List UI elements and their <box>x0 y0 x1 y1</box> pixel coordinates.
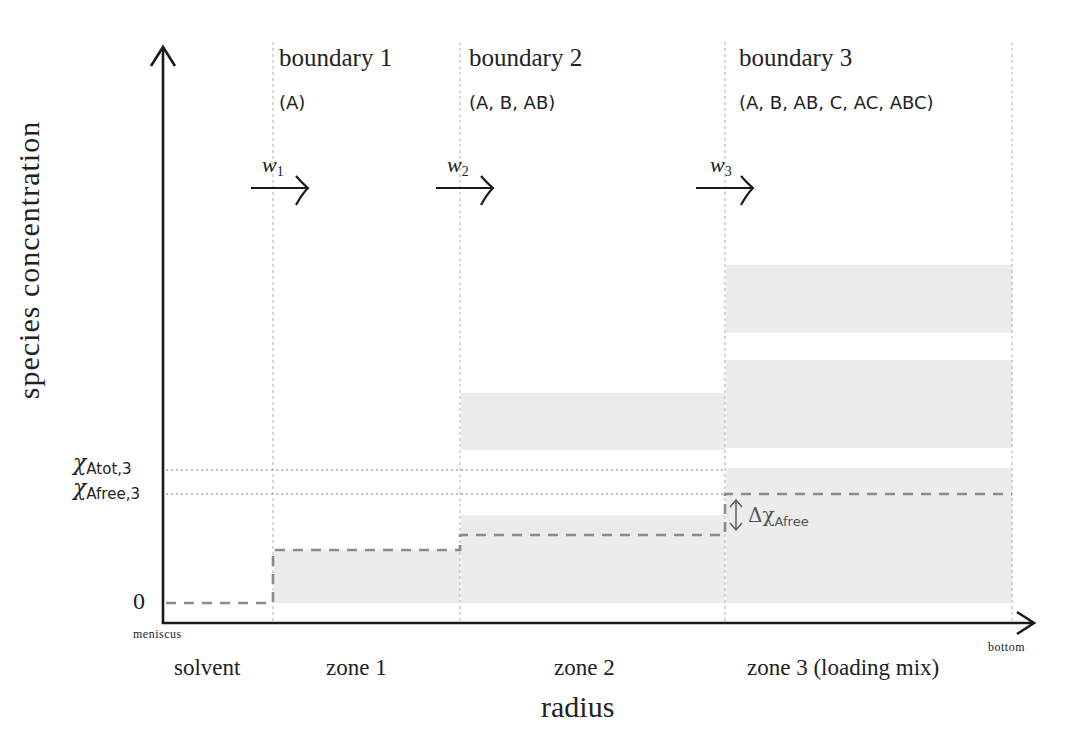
boundary-1-title: boundary 1 <box>279 44 392 72</box>
boundary-1-species: (A) <box>279 92 305 113</box>
y-tick-chi-atot-3: χAtot,3 <box>73 450 132 478</box>
y-tick-zero-text: 0 <box>133 588 145 614</box>
boundary-3-species: (A, B, AB, C, AC, ABC) <box>739 92 934 113</box>
zone3-band-middle <box>726 360 1012 448</box>
delta-main: Δχ <box>748 503 775 527</box>
w2-arrow-icon <box>436 176 493 205</box>
w3-main: w <box>710 152 725 177</box>
w2-sub: 2 <box>462 164 469 179</box>
w1-main: w <box>262 152 277 177</box>
zone-label-zone-3: zone 3 (loading mix) <box>747 655 939 681</box>
zone3-band-top <box>726 265 1012 333</box>
zone1-band <box>274 550 460 603</box>
zone2-band-lower <box>461 515 725 603</box>
w3-sub: 3 <box>725 164 732 179</box>
w1-sub: 1 <box>277 164 284 179</box>
shaded-bands <box>274 265 1012 603</box>
zone3-band-bottom <box>726 468 1012 603</box>
y-tick-zero: 0 <box>133 588 145 615</box>
figure: species concentration χAtot,3 χAfree,3 0… <box>0 0 1067 755</box>
y-tick-chi-afree-sub: Afree,3 <box>86 485 140 503</box>
boundary-2-title: boundary 2 <box>469 44 582 72</box>
bottom-label: bottom <box>988 640 1025 655</box>
y-tick-chi-afree-3: χAfree,3 <box>73 475 140 503</box>
w2-label: w2 <box>447 152 469 180</box>
w3-label: w3 <box>710 152 732 180</box>
w1-label: w1 <box>262 152 284 180</box>
reference-lines <box>166 470 725 494</box>
boundary-3-title: boundary 3 <box>739 44 852 72</box>
zone2-band-upper <box>461 393 725 450</box>
meniscus-label: meniscus <box>133 627 182 642</box>
x-axis-title: radius <box>541 690 614 724</box>
delta-sub: Afree <box>775 514 809 529</box>
y-tick-chi-atot-main: χ <box>73 450 86 475</box>
w2-main: w <box>447 152 462 177</box>
boundary-2-species: (A, B, AB) <box>469 92 555 113</box>
velocity-arrows <box>251 176 753 205</box>
zone-label-solvent: solvent <box>174 655 240 681</box>
y-axis-title: species concentration <box>12 110 46 410</box>
delta-chi-afree-label: ΔχAfree <box>748 503 809 529</box>
y-tick-chi-afree-main: χ <box>73 475 86 500</box>
y-axis-title-text: species concentration <box>12 121 45 399</box>
zone-label-zone-1: zone 1 <box>326 655 387 681</box>
w1-arrow-icon <box>251 176 308 205</box>
zone-label-zone-2: zone 2 <box>554 655 615 681</box>
